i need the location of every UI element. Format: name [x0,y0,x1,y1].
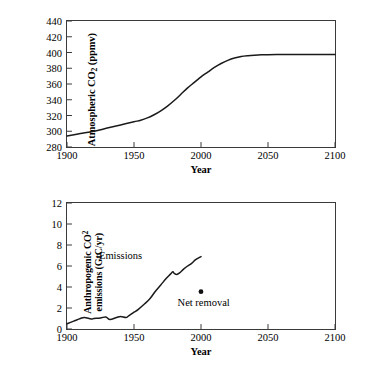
y-tick-label: 6 [57,261,62,272]
panel-atmospheric-co2: Atmospheric CO2 (ppmv) 28030032034036038… [0,0,368,188]
x-axis-title-anthropogenic-emissions: Year [191,346,212,357]
y-tick-label: 320 [46,110,62,121]
panel-anthropogenic-emissions: Anthropogenic CO2emissions (GtC/yr) 0246… [0,186,368,372]
tick-marks-anthropogenic-emissions [67,203,335,329]
y-tick-label: 420 [46,31,62,42]
x-tick-label: 1900 [57,150,78,161]
curve-atmospheric-co2 [67,21,335,147]
x-tick-label: 2050 [258,150,279,161]
figure-two-panel-co2: Atmospheric CO2 (ppmv) 28030032034036038… [0,0,368,372]
x-tick-label: 2050 [258,332,279,343]
data-line-emissions [67,257,201,324]
net-removal-label: Net removal [178,297,230,308]
x-tick-label: 1950 [124,332,145,343]
y-tick-label: 360 [46,79,62,90]
y-tick-label: 12 [52,198,63,209]
x-tick-label: 1900 [57,332,78,343]
data-line-atmospheric-co2 [67,54,335,136]
y-tick-label: 340 [46,94,62,105]
y-tick-label: 440 [46,16,62,27]
x-tick-label: 2100 [325,332,346,343]
emissions-series-label: Emissions [99,249,142,260]
x-tick-label: 2000 [191,150,212,161]
y-tick-label: 8 [57,240,62,251]
plot-area-atmospheric-co2: Atmospheric CO2 (ppmv) 28030032034036038… [66,20,336,148]
x-axis-title-atmospheric-co2: Year [191,164,212,175]
data-points-net-removal [199,289,204,294]
net-removal-point [199,289,204,294]
y-tick-label: 300 [46,126,62,137]
x-tick-label: 1950 [124,150,145,161]
x-tick-label: 2100 [325,150,346,161]
curve-anthropogenic-emissions [67,203,335,329]
y-tick-label: 380 [46,63,62,74]
y-tick-label: 10 [52,219,63,230]
y-tick-label: 400 [46,47,62,58]
x-tick-label: 2000 [191,332,212,343]
y-tick-label: 2 [57,303,62,314]
y-tick-label: 4 [57,282,62,293]
plot-area-anthropogenic-emissions: Anthropogenic CO2emissions (GtC/yr) 0246… [66,202,336,330]
